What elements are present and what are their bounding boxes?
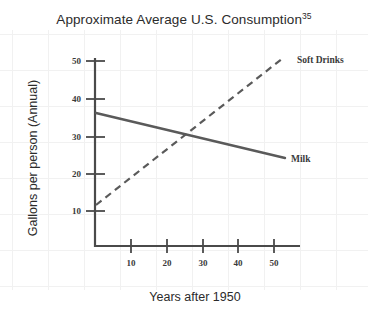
y-tick-label-50: 50	[57, 56, 81, 66]
series-line-soft-drinks	[96, 58, 283, 205]
chart-page: Approximate Average U.S. Consumption35 G…	[0, 0, 368, 317]
y-tick-label-40: 40	[57, 94, 81, 104]
plot-area	[0, 0, 368, 317]
series-label-milk: Milk	[291, 154, 311, 164]
x-tick-label-40: 40	[226, 258, 250, 268]
x-tick-label-10: 10	[119, 258, 143, 268]
x-tick-label-30: 30	[191, 258, 215, 268]
y-tick-label-20: 20	[57, 169, 81, 179]
x-tick-label-50: 50	[262, 258, 286, 268]
series-line-milk	[96, 113, 285, 158]
x-tick-label-20: 20	[155, 258, 179, 268]
y-tick-label-10: 10	[57, 206, 81, 216]
y-tick-label-30: 30	[57, 132, 81, 142]
series-label-soft-drinks: Soft Drinks	[297, 55, 344, 65]
